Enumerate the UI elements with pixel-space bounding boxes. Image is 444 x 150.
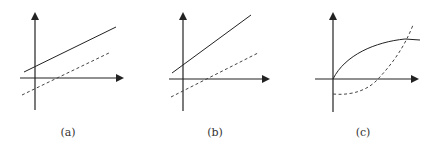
solid-curve bbox=[333, 39, 420, 79]
panel-a bbox=[20, 14, 122, 110]
dashed-curve bbox=[333, 25, 413, 94]
panel-label-b: (b) bbox=[207, 126, 223, 139]
panel-label-a: (a) bbox=[60, 126, 75, 139]
solid-line bbox=[172, 15, 251, 73]
panel-label-c: (c) bbox=[356, 126, 371, 139]
dashed-line bbox=[171, 53, 258, 97]
solid-line bbox=[24, 27, 116, 72]
panel-b bbox=[169, 14, 268, 111]
panel-c bbox=[315, 14, 420, 112]
